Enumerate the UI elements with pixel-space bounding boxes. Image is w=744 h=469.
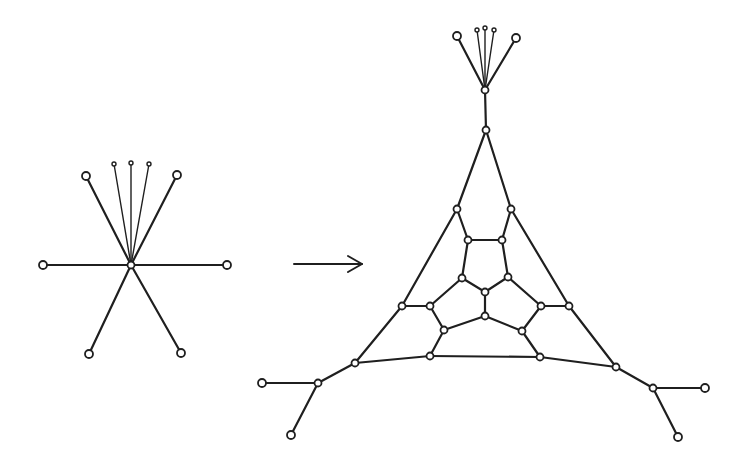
right-graph-vertex — [453, 32, 461, 40]
right-graph-edge — [402, 209, 457, 306]
right-graph-vertex — [454, 206, 461, 213]
right-graph-vertex — [441, 327, 448, 334]
left-graph-vertex — [173, 171, 181, 179]
right-graph-edge — [355, 306, 402, 363]
right-graph-vertex — [315, 380, 322, 387]
right-graph-edge — [318, 363, 355, 383]
right-graph-vertex — [483, 127, 490, 134]
right-graph-edge — [457, 209, 468, 240]
right-graph-edge — [430, 356, 540, 357]
left-graph-edge — [131, 175, 177, 265]
left-graph-vertex — [223, 261, 231, 269]
right-graph-vertex — [482, 313, 489, 320]
right-graph-vertex — [258, 379, 266, 387]
right-graph-edge — [355, 356, 430, 363]
left-graph-edge — [131, 265, 181, 353]
right-graph-vertex — [505, 274, 512, 281]
right-graph-edge — [462, 240, 468, 278]
transformation-arrow-icon — [294, 256, 362, 272]
right-graph-vertex — [537, 354, 544, 361]
right-graph-vertex — [613, 364, 620, 371]
left-graph-vertex — [85, 350, 93, 358]
right-graph-edge — [457, 130, 486, 209]
right-graph-vertex — [492, 28, 496, 32]
graph-transformation-diagram — [0, 0, 744, 469]
right-graph-vertex — [399, 303, 406, 310]
right-graph-edge — [291, 383, 318, 435]
left-graph-vertex — [39, 261, 47, 269]
left-graph-vertex — [112, 162, 116, 166]
right-graph-edge — [486, 130, 511, 209]
left-graph-vertex — [177, 349, 185, 357]
left-graph-vertex — [129, 161, 133, 165]
right-graph-vertex — [459, 275, 466, 282]
right-graph-vertex — [482, 87, 489, 94]
right-graph-vertex — [566, 303, 573, 310]
right-graph-vertex — [519, 328, 526, 335]
left-graph-edge — [131, 164, 149, 265]
right-graph-vertex — [475, 28, 479, 32]
right-graph-vertex — [538, 303, 545, 310]
right-graph-edge — [616, 367, 653, 388]
right-graph-edge — [511, 209, 569, 306]
right-graph-vertex — [512, 34, 520, 42]
right-graph-vertex — [287, 431, 295, 439]
right-graph-vertex — [465, 237, 472, 244]
right-graph-edge — [444, 316, 485, 330]
right-graph-vertex — [427, 353, 434, 360]
left-graph-edge — [89, 265, 131, 354]
right-graph-vertex — [499, 237, 506, 244]
right-graph-edge — [485, 38, 516, 90]
right-graph-vertex — [650, 385, 657, 392]
right-graph-vertex — [701, 384, 709, 392]
right-graph-edge — [653, 388, 678, 437]
left-graph-edges — [43, 163, 227, 354]
right-graph-vertex — [427, 303, 434, 310]
left-graph-edge — [86, 176, 131, 265]
right-graph-vertex — [674, 433, 682, 441]
right-graph-edge — [569, 306, 616, 367]
right-graph-edge — [430, 278, 462, 306]
right-graph-edge — [522, 306, 541, 331]
right-graph-vertex — [483, 26, 487, 30]
right-graph-vertex — [508, 206, 515, 213]
left-graph-vertex — [82, 172, 90, 180]
right-graph-edge — [508, 277, 541, 306]
right-graph-edge — [485, 90, 486, 130]
right-graph-edge — [430, 330, 444, 356]
right-graph-edge — [522, 331, 540, 357]
right-graph-edge — [540, 357, 616, 367]
right-graph-vertex — [352, 360, 359, 367]
left-graph-vertex — [147, 162, 151, 166]
right-graph-edge — [502, 209, 511, 240]
right-graph-edge — [485, 316, 522, 331]
left-graph-vertex — [128, 262, 135, 269]
right-graph-edge — [502, 240, 508, 277]
right-graph-vertex — [482, 289, 489, 296]
